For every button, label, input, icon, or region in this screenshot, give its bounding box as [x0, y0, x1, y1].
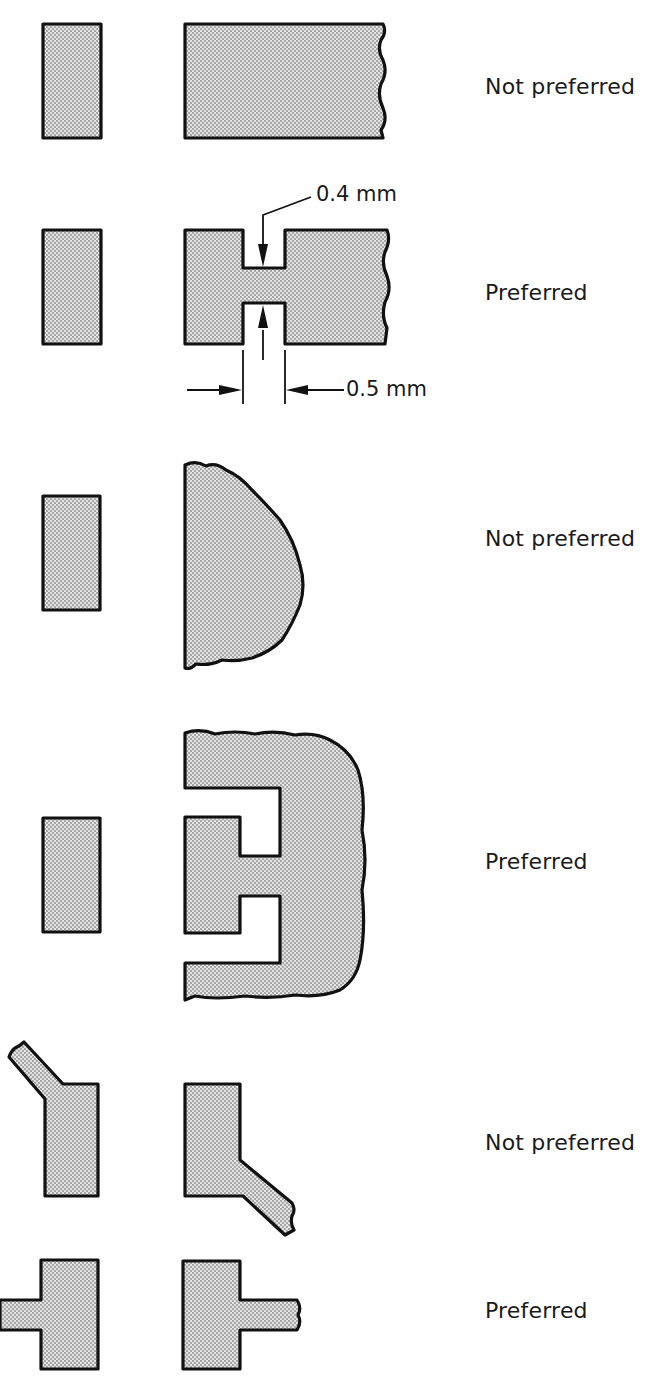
arrow-left-icon [286, 385, 308, 395]
component-pad [43, 230, 101, 344]
pad-with-angled-trace-left [9, 1042, 98, 1196]
pad-with-straight-trace-right [183, 1261, 300, 1369]
row-3-verdict-label: Not preferred [485, 528, 635, 550]
row-4-illustration [43, 731, 365, 1000]
row-2-verdict-label: Preferred [485, 282, 588, 304]
arrow-right-icon [219, 385, 242, 395]
arrow-up-icon [258, 305, 268, 328]
slotted-copper-pour [185, 731, 365, 1000]
component-pad [43, 496, 100, 610]
row-6-illustration [0, 1260, 300, 1369]
arrow-down-icon [258, 244, 268, 267]
component-pad [43, 24, 101, 138]
row-5-verdict-label: Not preferred [485, 1132, 635, 1154]
dimension-label-neck-length: 0.5 mm [346, 379, 427, 400]
row-1-illustration [43, 24, 385, 138]
large-copper-area [185, 24, 385, 138]
row-4-verdict-label: Preferred [485, 851, 588, 873]
row-3-illustration [43, 463, 303, 669]
row-6-verdict-label: Preferred [485, 1300, 588, 1322]
irregular-copper-pour [185, 463, 303, 669]
dimension-neck-length [187, 350, 344, 404]
pad-with-neck [185, 230, 389, 344]
row-1-verdict-label: Not preferred [485, 76, 635, 98]
pad-design-diagram [0, 0, 669, 1390]
component-pad [43, 818, 100, 932]
row-2-illustration [43, 197, 389, 404]
dimension-label-neck-width: 0.4 mm [316, 184, 397, 205]
row-5-illustration [9, 1042, 294, 1235]
pad-with-straight-trace-left [0, 1260, 98, 1369]
pad-with-angled-trace-right [185, 1084, 294, 1235]
